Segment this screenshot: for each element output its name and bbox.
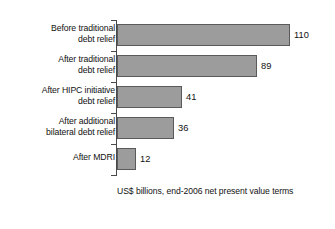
category-label-line: bilateral debt relief [5, 127, 115, 138]
bar-row: Before traditional debt relief 110 [0, 20, 335, 52]
bar-before-traditional-debt-relief [117, 24, 290, 46]
bar-value-label: 41 [186, 86, 196, 108]
category-label-line: After HIPC initiative [5, 85, 115, 96]
bar-value-label: 89 [261, 55, 271, 77]
bar-value-label: 110 [294, 24, 309, 46]
category-label: After MDRI [5, 152, 115, 163]
category-label-line: After MDRI [5, 152, 115, 163]
category-label-line: debt relief [5, 65, 115, 76]
bar-value-label: 12 [140, 148, 150, 170]
bar-row: After MDRI 12 [0, 144, 335, 176]
category-label: After additional bilateral debt relief [5, 116, 115, 137]
bar-after-traditional-debt-relief [117, 55, 257, 77]
bar-rows: Before traditional debt relief 110 After… [0, 18, 335, 178]
bar-row: After traditional debt relief 89 [0, 51, 335, 83]
axis-caption: US$ billions, end-2006 net present value… [117, 186, 293, 196]
category-label-line: debt relief [5, 34, 115, 45]
bar-after-additional-bilateral-debt-relief [117, 117, 174, 139]
category-label: After traditional debt relief [5, 54, 115, 75]
bar-after-mdri [117, 148, 136, 170]
category-label-line: After traditional [5, 54, 115, 65]
category-label-line: After additional [5, 116, 115, 127]
bar-row: After additional bilateral debt relief 3… [0, 113, 335, 145]
plot-area: Before traditional debt relief 110 After… [0, 18, 335, 178]
category-label-line: Before traditional [5, 23, 115, 34]
category-label: Before traditional debt relief [5, 23, 115, 44]
category-label: After HIPC initiative debt relief [5, 85, 115, 106]
category-label-line: debt relief [5, 96, 115, 107]
bar-after-hipc-initiative-debt-relief [117, 86, 182, 108]
bar-value-label: 36 [178, 117, 188, 139]
bar-chart: Before traditional debt relief 110 After… [0, 0, 335, 229]
bar-row: After HIPC initiative debt relief 41 [0, 82, 335, 114]
